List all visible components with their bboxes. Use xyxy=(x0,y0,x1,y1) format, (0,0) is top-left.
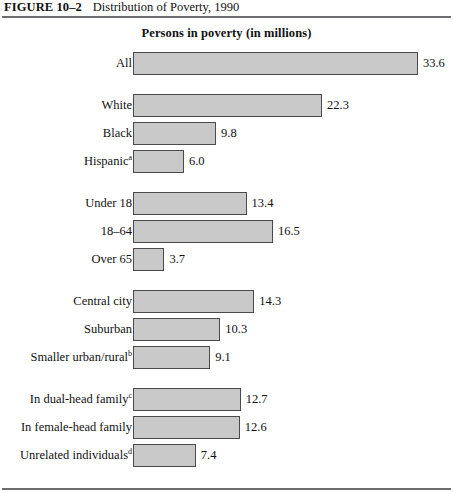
bar-row: Suburban10.3 xyxy=(0,318,453,341)
bar-row: White22.3 xyxy=(0,94,453,117)
bar-row: Smaller urban/ruralb9.1 xyxy=(0,346,453,369)
bar-value-label: 12.7 xyxy=(246,393,268,406)
bar-track: 9.8 xyxy=(133,122,453,145)
bar xyxy=(133,52,418,75)
bar-category-label: All xyxy=(0,57,133,70)
figure-caption: Distribution of Poverty, 1990 xyxy=(93,0,239,15)
bar-category-label: Unrelated individualsd xyxy=(0,449,133,462)
bar-category-label: Over 65 xyxy=(0,253,133,266)
bar-track: 16.5 xyxy=(133,220,453,243)
bar-row: Under 1813.4 xyxy=(0,192,453,215)
figure-header: FIGURE 10–2 Distribution of Poverty, 199… xyxy=(0,0,453,17)
bar xyxy=(133,416,240,439)
bar-value-label: 16.5 xyxy=(278,225,300,238)
bar-track: 12.7 xyxy=(133,388,453,411)
bar-track: 7.4 xyxy=(133,444,453,467)
bar-row: In female-head family12.6 xyxy=(0,416,453,439)
bar-track: 6.0 xyxy=(133,150,453,173)
bar-value-label: 14.3 xyxy=(259,295,281,308)
bar-row: 18–6416.5 xyxy=(0,220,453,243)
bar-track: 10.3 xyxy=(133,318,453,341)
bar xyxy=(133,290,254,313)
header-divider-rule xyxy=(2,16,451,18)
bar-row: Unrelated individualsd7.4 xyxy=(0,444,453,467)
footnote-marker: c xyxy=(128,391,132,400)
bar xyxy=(133,122,216,145)
bar xyxy=(133,346,210,369)
bar-group-total: All33.6 xyxy=(0,52,453,75)
bar-value-label: 10.3 xyxy=(225,323,247,336)
bar-track: 12.6 xyxy=(133,416,453,439)
bar-value-label: 9.1 xyxy=(215,351,231,364)
bar-value-label: 3.7 xyxy=(169,253,185,266)
bar-category-label: 18–64 xyxy=(0,225,133,238)
bar-track: 13.4 xyxy=(133,192,453,215)
bar-track: 9.1 xyxy=(133,346,453,369)
bar xyxy=(133,444,196,467)
footnote-marker: b xyxy=(128,349,132,358)
bar-row: In dual-head familyc12.7 xyxy=(0,388,453,411)
bar-category-label: Under 18 xyxy=(0,197,133,210)
bar-value-label: 7.4 xyxy=(201,449,217,462)
bar-value-label: 12.6 xyxy=(245,421,267,434)
bar-value-label: 6.0 xyxy=(189,155,205,168)
bar-value-label: 22.3 xyxy=(327,99,349,112)
bar-track: 33.6 xyxy=(133,52,453,75)
bar-row: Central city14.3 xyxy=(0,290,453,313)
bar xyxy=(133,388,241,411)
bar-track: 14.3 xyxy=(133,290,453,313)
bar-group-residence: Central city14.3Suburban10.3Smaller urba… xyxy=(0,290,453,369)
bar-row: Black9.8 xyxy=(0,122,453,145)
bar-category-label: Central city xyxy=(0,295,133,308)
bar-track: 22.3 xyxy=(133,94,453,117)
bar-group-age: Under 1813.418–6416.5Over 653.7 xyxy=(0,192,453,271)
footer-divider-rule xyxy=(2,488,451,490)
bar xyxy=(133,248,164,271)
bar-value-label: 33.6 xyxy=(423,57,445,70)
bar xyxy=(133,220,273,243)
bar xyxy=(133,94,322,117)
bar xyxy=(133,192,247,215)
bar xyxy=(133,150,184,173)
bar-track: 3.7 xyxy=(133,248,453,271)
bar-row: Hispanica6.0 xyxy=(0,150,453,173)
bar-value-label: 9.8 xyxy=(221,127,237,140)
bar-row: Over 653.7 xyxy=(0,248,453,271)
footnote-marker: a xyxy=(128,153,132,162)
bar-category-label: Smaller urban/ruralb xyxy=(0,351,133,364)
figure-number: FIGURE 10–2 xyxy=(4,0,82,15)
bar-group-household-type: In dual-head familyc12.7In female-head f… xyxy=(0,388,453,467)
bar-category-label: Suburban xyxy=(0,323,133,336)
bar xyxy=(133,318,220,341)
bar-group-race-ethnicity: White22.3Black9.8Hispanica6.0 xyxy=(0,94,453,173)
bar-category-label: Hispanica xyxy=(0,155,133,168)
bar-value-label: 13.4 xyxy=(252,197,274,210)
bar-chart: All33.6White22.3Black9.8Hispanica6.0Unde… xyxy=(0,52,453,467)
bar-category-label: In female-head family xyxy=(0,421,133,434)
bar-category-label: White xyxy=(0,99,133,112)
bar-row: All33.6 xyxy=(0,52,453,75)
footnote-marker: d xyxy=(128,447,132,456)
bar-category-label: In dual-head familyc xyxy=(0,393,133,406)
bar-category-label: Black xyxy=(0,127,133,140)
chart-title: Persons in poverty (in millions) xyxy=(0,26,453,41)
